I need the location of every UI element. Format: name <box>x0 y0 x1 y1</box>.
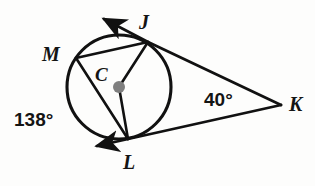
point-label-c: C <box>95 65 108 84</box>
center-point-dot <box>113 81 125 93</box>
geometry-figure-canvas: J M C L K 138° 40° <box>0 0 315 186</box>
point-label-k: K <box>289 94 302 114</box>
tangent-lk <box>128 105 281 139</box>
circle-diagram-svg <box>0 0 315 186</box>
point-label-j: J <box>139 12 149 32</box>
point-label-m: M <box>42 44 60 64</box>
point-label-l: L <box>123 152 135 172</box>
angle-measure-label-40: 40° <box>204 90 233 109</box>
arc-measure-label-138: 138° <box>14 110 53 129</box>
